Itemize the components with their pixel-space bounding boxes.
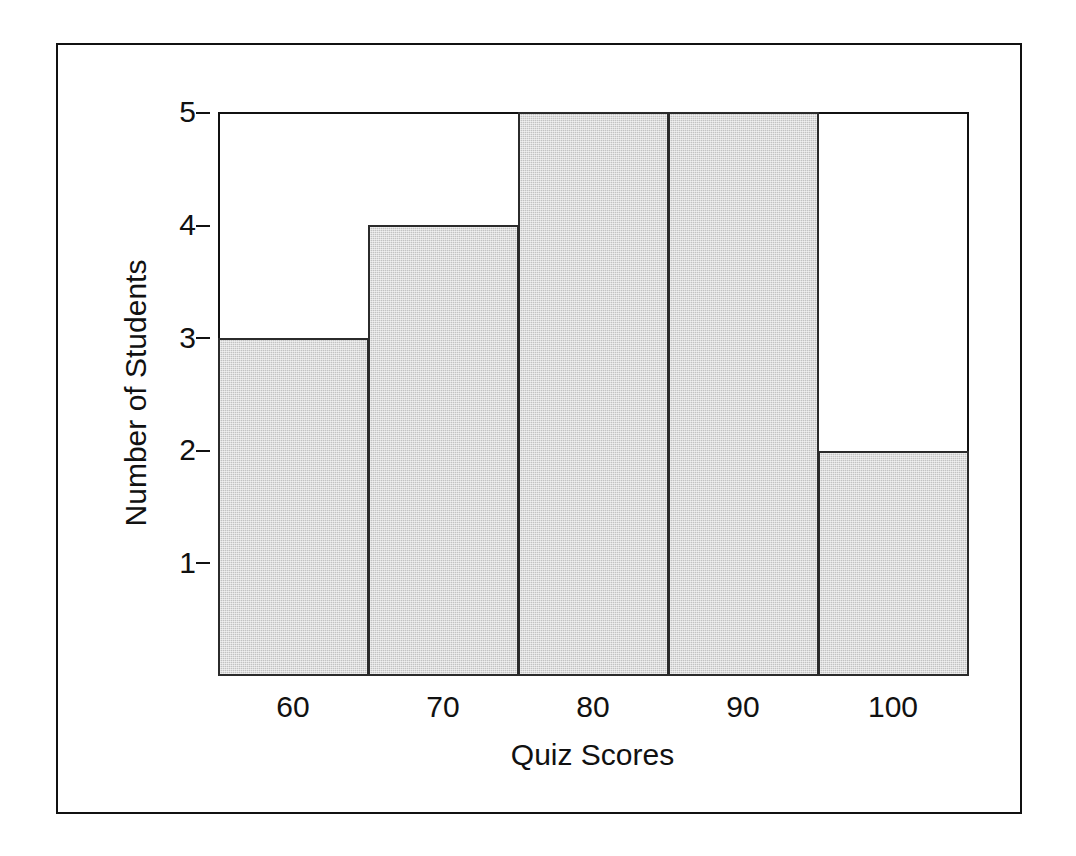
x-tick-label-60: 60 <box>218 690 368 724</box>
figure-container: Number of Students 1 2 3 4 5 60 70 80 90… <box>0 0 1076 856</box>
x-tick-label-80: 80 <box>518 690 668 724</box>
histogram-bar-100 <box>818 451 969 676</box>
histogram-chart: Number of Students 1 2 3 4 5 60 70 80 90… <box>0 0 1076 856</box>
histogram-bar-60 <box>218 338 369 676</box>
x-tick-label-100: 100 <box>818 690 968 724</box>
y-tick-mark-1 <box>196 562 210 564</box>
x-axis-title: Quiz Scores <box>218 736 967 774</box>
y-tick-label-2: 2 <box>148 435 196 465</box>
x-tick-label-90: 90 <box>668 690 818 724</box>
y-tick-mark-4 <box>196 225 210 227</box>
y-tick-mark-3 <box>196 337 210 339</box>
y-tick-mark-2 <box>196 450 210 452</box>
y-tick-label-4: 4 <box>148 210 196 240</box>
histogram-bar-80 <box>518 112 669 676</box>
y-tick-label-5: 5 <box>148 97 196 127</box>
histogram-bar-90 <box>668 112 819 676</box>
x-tick-label-70: 70 <box>368 690 518 724</box>
y-tick-label-1: 1 <box>148 548 196 578</box>
y-tick-mark-5 <box>196 112 210 114</box>
histogram-bar-70 <box>368 225 519 676</box>
y-tick-label-3: 3 <box>148 323 196 353</box>
